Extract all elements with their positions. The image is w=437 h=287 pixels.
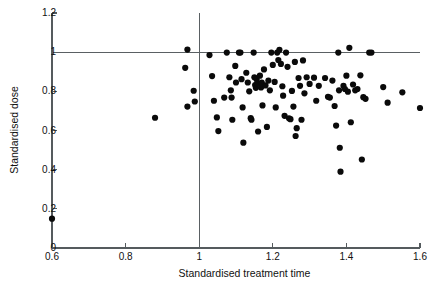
data-point [214,114,220,120]
data-point [226,74,232,80]
data-point [417,105,423,111]
data-point [184,47,190,53]
data-point [304,74,310,80]
x-tick-label: 0.6 [45,252,59,262]
data-point [399,89,405,95]
data-point [293,133,299,139]
data-point [332,103,338,109]
data-point [362,96,368,102]
data-point [228,95,234,101]
data-point [276,47,282,53]
y-axis-title: Standardised dose [9,86,20,174]
data-point [337,169,343,175]
y-tick-label: 0 [50,243,56,253]
data-point [209,73,215,79]
data-point [257,73,263,79]
data-point [280,93,286,99]
x-axis-title: Standardised treatment time [0,268,437,279]
data-point [259,102,265,108]
data-point [278,61,284,67]
data-point [232,63,238,69]
data-point [380,84,386,90]
data-point [233,79,239,85]
data-point [337,145,343,151]
data-point [327,95,333,101]
data-point [279,83,285,89]
data-point [350,81,356,87]
data-point [243,70,249,76]
data-point [311,75,317,81]
data-point [238,76,244,82]
data-point [255,128,261,134]
data-point [290,104,296,110]
data-point [283,49,289,55]
data-point [333,123,339,129]
data-point [229,117,235,123]
reference-lines-group [52,13,420,248]
data-point [246,88,252,94]
data-point [343,73,349,79]
data-point [240,140,246,146]
tick-marks-group [52,13,420,248]
data-point [245,79,251,85]
data-point [357,72,363,78]
data-point [267,87,273,93]
data-point [307,81,313,87]
data-point [224,49,230,55]
data-points-group [49,45,423,222]
y-tick-label: 0.4 [42,165,56,175]
data-point [313,98,319,104]
data-point [287,116,293,122]
data-point [292,59,298,65]
data-point [152,115,158,121]
data-point [348,119,354,125]
data-point [289,88,295,94]
data-point [346,45,352,51]
data-point [359,156,365,162]
data-point [265,77,271,83]
data-point [354,86,360,92]
data-point [248,117,254,123]
y-tick-label: 0.2 [42,204,56,214]
data-point [385,100,391,106]
x-tick-label: 1.4 [339,252,353,262]
data-point [300,57,306,63]
y-tick-label: 1 [50,47,56,57]
y-tick-label: 1.2 [42,8,56,18]
data-point [184,104,190,110]
axes-group [52,13,420,248]
data-point [298,117,304,123]
x-tick-label: 1.2 [266,252,280,262]
data-point [301,90,307,96]
data-point [268,49,274,55]
y-tick-label: 0.6 [42,126,56,136]
data-point [215,128,221,134]
scatter-plot-figure: 0.60.811.21.41.6 00.20.40.60.811.2 Stand… [0,0,437,287]
data-point [192,98,198,104]
data-point [322,75,328,81]
data-point [316,83,322,89]
data-point [294,125,300,131]
data-point [345,89,351,95]
x-tick-label: 1.6 [413,252,427,262]
x-tick-label: 1 [196,252,202,262]
data-point [272,79,278,85]
data-point [191,88,197,94]
data-point [49,216,55,222]
data-point [261,66,267,72]
data-point [335,49,341,55]
data-point [273,104,279,110]
data-point [336,87,342,93]
data-point [228,87,234,93]
data-point [270,62,276,68]
y-tick-label: 0.8 [42,86,56,96]
data-point [206,52,212,58]
data-point [329,77,335,83]
data-point [368,49,374,55]
data-point [182,65,188,71]
data-point [264,124,270,130]
plot-canvas [0,0,437,287]
data-point [295,75,301,81]
data-point [251,49,257,55]
x-tick-label: 0.8 [119,252,133,262]
